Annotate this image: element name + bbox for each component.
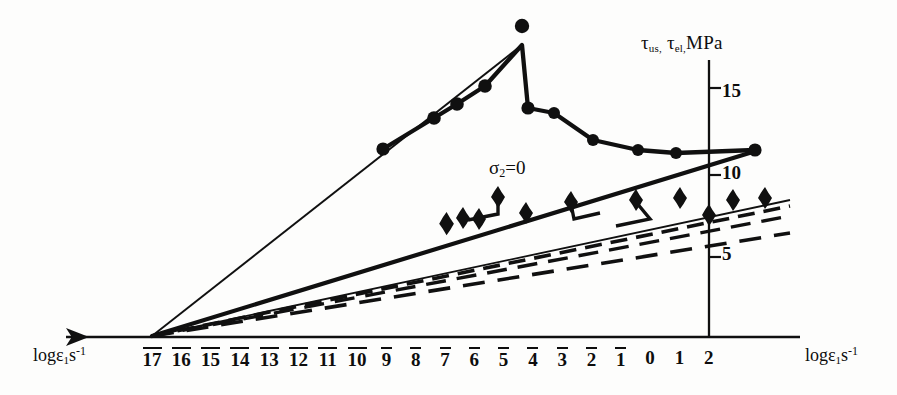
x-tick-value: 9 (382, 349, 392, 370)
chart-canvas (0, 0, 897, 395)
x-tick-minus7: 7 (432, 347, 458, 369)
x-tick-value: 8 (411, 349, 421, 370)
x-tick-value: 3 (557, 349, 567, 370)
series-circles-line (383, 45, 755, 153)
x-tick-minus5: 5 (491, 347, 517, 369)
x-tick-minus15: 15 (198, 347, 224, 369)
fan-lines-group (152, 45, 790, 336)
data-point-star (491, 186, 505, 208)
x-tick-2: 2 (696, 347, 722, 367)
x-tick-value: 14 (230, 349, 249, 370)
data-point-circle (548, 107, 560, 119)
data-point-circle (670, 147, 682, 159)
series-stars-group (439, 186, 772, 235)
y-tick-5: 5 (722, 244, 732, 263)
x-tick-value: 0 (645, 347, 655, 368)
data-point-circle (587, 134, 599, 146)
x-tick-value: 12 (289, 349, 308, 370)
x-tick-value: 2 (587, 349, 597, 370)
x-tick-value: 13 (260, 349, 279, 370)
x-axis-label-right: logε1s-1 (805, 345, 858, 366)
fan-line-upper-envelope (152, 45, 522, 336)
data-point-star (673, 187, 687, 209)
x-tick-value: 6 (470, 349, 480, 370)
x-tick-minus1: 1 (608, 347, 634, 369)
x-tick-value: 7 (440, 349, 450, 370)
series-stars-markers (439, 186, 772, 235)
data-point-circle (427, 111, 441, 125)
x-tick-value: 17 (143, 349, 162, 370)
fan-line-star-dashed-mid (152, 216, 790, 336)
x-tick-minus11: 11 (315, 347, 341, 369)
data-point-circle (376, 142, 389, 155)
data-point-star (439, 212, 454, 235)
data-point-star (456, 207, 470, 229)
x-tick-value: 5 (499, 349, 509, 370)
x-tick-minus16: 16 (168, 347, 194, 369)
x-tick-minus10: 10 (344, 347, 370, 369)
x-tick-minus17: 17 (139, 347, 165, 369)
x-tick-minus8: 8 (403, 347, 429, 369)
axes-group (66, 60, 800, 337)
x-tick-minus9: 9 (373, 347, 399, 369)
x-tick-minus3: 3 (549, 347, 575, 369)
data-point-circle (515, 19, 529, 33)
x-tick-minus12: 12 (286, 347, 312, 369)
data-point-star (472, 208, 486, 230)
data-point-circle (748, 143, 761, 156)
annotation-sigma2-zero: σ2=0 (489, 158, 525, 179)
x-tick-value: 1 (675, 347, 685, 368)
x-tick-0: 0 (637, 347, 663, 367)
x-tick-minus4: 4 (520, 347, 546, 369)
x-tick-minus13: 13 (256, 347, 282, 369)
x-axis-label-left: logε1s-1 (33, 345, 86, 366)
fan-line-sigma2-zero (152, 151, 756, 336)
y-axis-label: τus, τel,MPa (641, 33, 723, 54)
x-tick-minus6: 6 (461, 347, 487, 369)
x-tick-minus2: 2 (579, 347, 605, 369)
data-point-circle (521, 101, 534, 114)
data-point-star (726, 189, 740, 211)
data-point-circle (478, 79, 492, 93)
x-tick-1: 1 (666, 347, 692, 367)
y-tick-10: 10 (722, 163, 741, 182)
y-tick-15: 15 (722, 81, 741, 100)
fan-line-lower-dashed (152, 233, 790, 336)
data-point-circle (632, 144, 644, 156)
data-point-circle (450, 97, 464, 111)
x-tick-value: 10 (348, 349, 367, 370)
x-tick-value: 15 (201, 349, 220, 370)
x-tick-value: 1 (616, 349, 626, 370)
x-tick-value: 11 (319, 349, 337, 370)
x-tick-value: 4 (528, 349, 538, 370)
x-tick-value: 2 (704, 347, 714, 368)
x-tick-minus14: 14 (227, 347, 253, 369)
x-tick-value: 16 (172, 349, 191, 370)
chart-figure: 1716151413121110987654321012 51015 logε1… (0, 0, 897, 395)
